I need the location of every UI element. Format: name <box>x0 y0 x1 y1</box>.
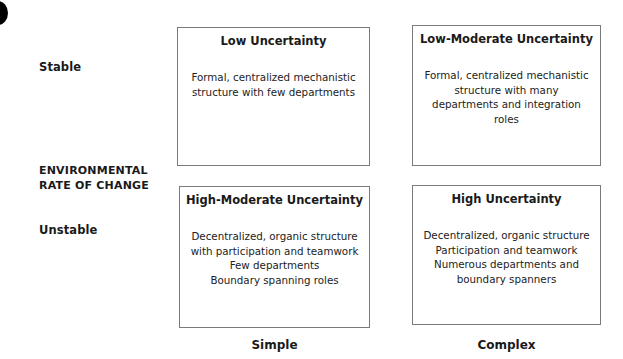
cell-line: departments and integration <box>413 97 600 112</box>
column-label-complex: Complex <box>412 338 601 352</box>
cell-high-moderate-uncertainty: High-Moderate Uncertainty Decentralized,… <box>179 186 370 328</box>
bullet-marker-icon <box>0 1 8 25</box>
cell-line: structure with few departments <box>178 85 369 100</box>
cell-line: Few departments <box>180 258 369 273</box>
cell-line: Formal, centralized mechanistic <box>413 68 600 83</box>
cell-line: with participation and teamwork <box>180 244 369 259</box>
cell-line: structure with many <box>413 83 600 98</box>
cell-line: Decentralized, organic structure <box>180 229 369 244</box>
row-label-stable: Stable <box>39 60 81 74</box>
cell-line: Participation and teamwork <box>413 243 600 258</box>
cell-description: Decentralized, organic structure with pa… <box>180 229 369 287</box>
cell-line: boundary spanners <box>413 272 600 287</box>
column-label-simple: Simple <box>179 338 370 352</box>
axis-title-line-2: RATE OF CHANGE <box>39 178 149 193</box>
cell-line: Boundary spanning roles <box>180 273 369 288</box>
axis-title-environmental-rate-of-change: ENVIRONMENTAL RATE OF CHANGE <box>39 163 149 193</box>
cell-line: Formal, centralized mechanistic <box>178 70 369 85</box>
cell-line: roles <box>413 112 600 127</box>
row-label-unstable: Unstable <box>39 223 97 237</box>
cell-description: Formal, centralized mechanistic structur… <box>178 70 369 99</box>
cell-line: Decentralized, organic structure <box>413 228 600 243</box>
cell-high-uncertainty: High Uncertainty Decentralized, organic … <box>412 185 601 325</box>
cell-title: Low-Moderate Uncertainty <box>413 32 600 46</box>
cell-low-uncertainty: Low Uncertainty Formal, centralized mech… <box>177 27 370 166</box>
cell-title: Low Uncertainty <box>178 34 369 48</box>
cell-line: Numerous departments and <box>413 257 600 272</box>
cell-title: High-Moderate Uncertainty <box>180 193 369 207</box>
axis-title-line-1: ENVIRONMENTAL <box>39 163 149 178</box>
cell-low-moderate-uncertainty: Low-Moderate Uncertainty Formal, central… <box>412 25 601 166</box>
cell-description: Formal, centralized mechanistic structur… <box>413 68 600 126</box>
cell-title: High Uncertainty <box>413 192 600 206</box>
cell-description: Decentralized, organic structure Partici… <box>413 228 600 286</box>
